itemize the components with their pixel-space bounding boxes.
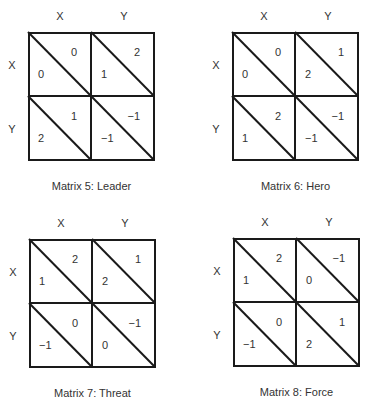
matrix-grid: 0 0 2 1 1 2 −1 −1 [28,32,155,161]
column-label-y: Y [115,217,135,229]
matrix-caption: Matrix 6: Hero [204,180,367,192]
matrix-grid: 0 0 1 2 2 1 −1 −1 [232,32,359,161]
matrix-caption: Matrix 8: Force [205,386,367,398]
grid-lines [28,32,155,161]
matrix-grid: 2 1 −1 0 0 −1 1 2 [233,238,360,367]
column-label-x: X [51,217,71,229]
column-label-x: X [255,216,275,228]
column-label-x: X [254,10,274,22]
row-label-x: X [2,59,22,71]
payoff-matrix-6: X Y X Y 0 0 1 2 2 1 −1 −1 [204,0,367,200]
column-label-y: Y [318,10,338,22]
grid-lines [29,239,156,368]
grid-lines [232,32,359,161]
row-label-x: X [206,59,226,71]
column-label-y: Y [114,10,134,22]
payoff-matrix-5: X Y X Y 0 0 2 1 1 2 −1 −1 [0,0,183,200]
matrix-grid: 2 1 1 2 0 −1 −1 0 [29,239,156,368]
row-label-y: Y [207,329,227,341]
payoff-matrix-8: X Y X Y 2 1 −1 0 0 −1 1 2 [205,206,367,402]
payoff-matrix-7: X Y X Y 2 1 1 2 0 −1 −1 0 [1,207,184,402]
row-label-x: X [3,266,23,278]
row-label-y: Y [206,123,226,135]
grid-lines [233,238,360,367]
column-label-y: Y [319,216,339,228]
matrix-caption: Matrix 5: Leader [0,180,183,192]
row-label-x: X [207,265,227,277]
matrix-caption: Matrix 7: Threat [1,387,184,399]
column-label-x: X [50,10,70,22]
row-label-y: Y [3,330,23,342]
row-label-y: Y [2,123,22,135]
